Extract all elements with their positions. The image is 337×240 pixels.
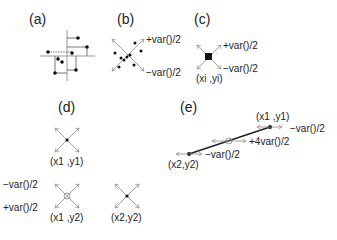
panel-a-plot xyxy=(40,30,95,81)
panel-e-point1-label: (x1 ,y1) xyxy=(256,112,289,122)
panel-c-label: (c) xyxy=(194,12,210,26)
panel-e-label: (e) xyxy=(180,100,197,114)
panel-c-minus-label: −var()/2 xyxy=(223,64,258,74)
panel-e-point2-label: (x2,y2) xyxy=(168,160,199,170)
panel-d-label: (d) xyxy=(58,100,75,114)
panel-c-point-label: (xi ,yi) xyxy=(196,74,223,84)
panel-a-label: (a) xyxy=(29,12,46,26)
panel-d-point1-label: (x1 ,y1) xyxy=(50,157,83,167)
panel-c-plot xyxy=(197,45,221,69)
panel-e-minus1-label: −var()/2 xyxy=(290,124,325,134)
panel-b-plus-label: +var()/2 xyxy=(146,35,181,45)
panel-d-plus-label: +var()/2 xyxy=(3,203,38,213)
panel-b-minus-label: −var()/2 xyxy=(146,68,181,78)
panel-d-point3-label: (x2,y2) xyxy=(111,213,142,223)
panel-b-plot xyxy=(112,39,144,71)
panel-d-point2-label: (x1 ,y2) xyxy=(50,213,83,223)
panel-e-minus2-label: −var()/2 xyxy=(205,150,240,160)
panel-d-plot xyxy=(55,128,139,208)
panel-b-label: (b) xyxy=(117,12,134,26)
panel-e-mid-label: +4var()/2 xyxy=(249,137,289,147)
panel-d-minus-label: −var()/2 xyxy=(3,180,38,190)
panel-c-plus-label: +var()/2 xyxy=(223,41,258,51)
